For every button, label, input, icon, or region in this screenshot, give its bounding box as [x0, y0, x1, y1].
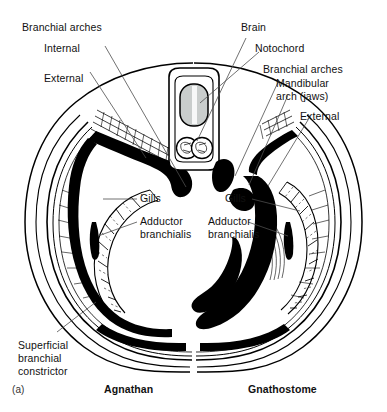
- label-adductor-branchialis-left-line1: Adductor: [140, 215, 183, 228]
- caption-agnathan: Agnathan: [104, 383, 153, 396]
- label-notochord: Notochord: [255, 42, 304, 55]
- label-internal-left: Internal: [44, 42, 80, 55]
- label-gills-left: Gills: [140, 192, 161, 205]
- gill-septa-left: [98, 190, 158, 312]
- anatomy-figure: Branchial arches Internal External Gills…: [0, 0, 387, 412]
- label-brain: Brain: [241, 21, 266, 34]
- gill-filaments-left: [94, 190, 158, 318]
- label-superficial-constrictor-line2: branchial: [18, 352, 62, 365]
- label-adductor-branchialis-right-line2: branchialis: [208, 228, 259, 241]
- gill-lamellae-left: [98, 194, 148, 307]
- label-mandibular-arch-line2: arch (jaws): [276, 90, 328, 103]
- notochord-structure: [180, 84, 208, 126]
- label-branchial-arches-right: Branchial arches: [263, 63, 343, 76]
- figure-panel-id: (a): [12, 384, 25, 397]
- label-branchial-arches-left: Branchial arches: [22, 21, 102, 34]
- brain-structure: [177, 138, 213, 159]
- label-external-right: External: [300, 110, 339, 123]
- label-gills-right: Gills: [225, 192, 246, 205]
- label-adductor-branchialis-left-line2: branchialis: [140, 228, 191, 241]
- label-mandibular-arch-line1: Mandibular: [276, 77, 329, 90]
- adductor-branchialis-left: [90, 222, 100, 260]
- ventral-bar-right: [200, 324, 290, 351]
- label-external-left: External: [44, 72, 83, 85]
- label-superficial-constrictor-line3: constrictor: [18, 365, 68, 378]
- caption-gnathostome: Gnathostome: [248, 383, 317, 396]
- label-superficial-constrictor-line1: Superficial: [18, 339, 68, 352]
- adductor-branchialis-right: [284, 222, 294, 260]
- label-adductor-branchialis-right-line1: Adductor: [208, 215, 251, 228]
